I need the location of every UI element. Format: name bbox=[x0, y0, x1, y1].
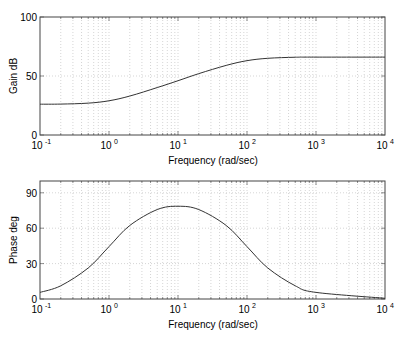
x-tick-label: 10 bbox=[169, 304, 181, 315]
x-tick-label: 10 bbox=[238, 140, 250, 151]
y-tick-label: 50 bbox=[26, 71, 38, 82]
x-tick-label: 10 bbox=[307, 304, 319, 315]
x-tick-exponent: -1 bbox=[45, 302, 51, 309]
x-tick-label: 10 bbox=[100, 140, 112, 151]
gain-y-tick-labels: 050100 bbox=[20, 12, 37, 141]
phase-axes-box bbox=[40, 181, 385, 299]
x-tick-label: 10 bbox=[307, 140, 319, 151]
x-tick-exponent: 3 bbox=[321, 138, 325, 145]
x-tick-label: 10 bbox=[169, 140, 181, 151]
x-tick-exponent: 3 bbox=[321, 302, 325, 309]
gain-grid bbox=[40, 17, 385, 135]
x-tick-exponent: 1 bbox=[183, 302, 187, 309]
phase-y-tick-labels: 0306090 bbox=[26, 188, 38, 305]
x-tick-label: 10 bbox=[31, 140, 43, 151]
x-tick-label: 10 bbox=[100, 304, 112, 315]
y-tick-label: 30 bbox=[26, 259, 38, 270]
y-tick-label: 100 bbox=[20, 12, 37, 23]
y-tick-label: 90 bbox=[26, 188, 38, 199]
gain-y-axis-label: Gain dB bbox=[8, 58, 19, 94]
x-tick-exponent: 0 bbox=[114, 302, 118, 309]
x-tick-label: 10 bbox=[376, 304, 388, 315]
x-tick-exponent: 4 bbox=[390, 138, 394, 145]
phase-x-tick-labels: 10-1100101102103104 bbox=[31, 302, 394, 315]
x-tick-exponent: 0 bbox=[114, 138, 118, 145]
x-tick-exponent: -1 bbox=[45, 138, 51, 145]
x-tick-label: 10 bbox=[376, 140, 388, 151]
phase-y-axis-label: Phase deg bbox=[8, 216, 19, 264]
bode-plot: 050100 10-1100101102103104 Gain dB Frequ… bbox=[0, 0, 406, 338]
gain-plot: 050100 10-1100101102103104 Gain dB Frequ… bbox=[8, 12, 394, 166]
phase-curve bbox=[40, 206, 385, 298]
phase-x-axis-label: Frequency (rad/sec) bbox=[168, 319, 257, 330]
y-tick-label: 60 bbox=[26, 223, 38, 234]
x-tick-exponent: 2 bbox=[252, 302, 256, 309]
gain-curve bbox=[40, 57, 385, 104]
phase-plot: 0306090 10-1100101102103104 Phase deg Fr… bbox=[8, 181, 394, 330]
phase-grid bbox=[40, 181, 385, 299]
x-tick-exponent: 4 bbox=[390, 302, 394, 309]
x-tick-label: 10 bbox=[238, 304, 250, 315]
x-tick-label: 10 bbox=[31, 304, 43, 315]
gain-x-tick-labels: 10-1100101102103104 bbox=[31, 138, 394, 151]
x-tick-exponent: 1 bbox=[183, 138, 187, 145]
x-tick-exponent: 2 bbox=[252, 138, 256, 145]
gain-x-axis-label: Frequency (rad/sec) bbox=[168, 155, 257, 166]
